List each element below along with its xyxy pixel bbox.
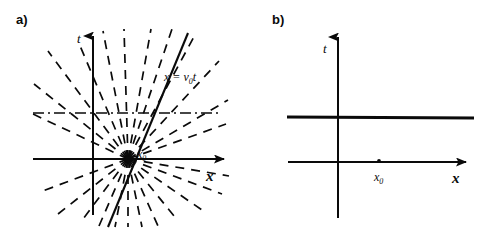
- panel-b-x0-dot: [377, 159, 381, 163]
- x0-subscript: 0: [379, 177, 383, 186]
- panel-a-origin-dot: [125, 156, 131, 162]
- equation-lhs: x = v: [163, 70, 189, 84]
- panel-b-label: b): [272, 12, 284, 27]
- panel-b-t-axis-label: t: [323, 41, 327, 56]
- panel-a-label: a): [16, 12, 28, 27]
- panel-a-x-axis-label: x: [205, 168, 214, 184]
- figure-background: [0, 0, 504, 232]
- physics-spacetime-diagram: a): [0, 0, 504, 232]
- panel-b-x-axis-label: x: [451, 170, 460, 186]
- panel-b-horizontal-simultaneity-line: [287, 117, 474, 118]
- panel-a-t-axis-label: t: [77, 31, 81, 46]
- x0-subscript: 0: [142, 154, 146, 163]
